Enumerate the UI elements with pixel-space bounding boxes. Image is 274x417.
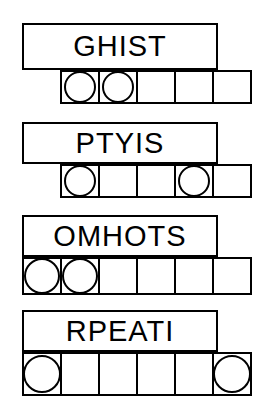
answer-cell[interactable] [98,352,138,396]
answer-cell[interactable] [174,257,214,295]
answer-cell[interactable] [174,352,214,396]
answer-cell[interactable] [212,352,252,396]
circle-icon [24,258,60,294]
answer-cell[interactable] [136,257,176,295]
scrambled-word-box: PTYIS [22,122,218,164]
circle-icon [62,258,98,294]
scrambled-word-text: RPEATI [66,317,175,346]
answer-cell[interactable] [98,164,138,198]
circle-icon [102,71,134,103]
answer-cell[interactable] [60,352,100,396]
answer-cell[interactable] [22,257,62,295]
answer-cell[interactable] [136,164,176,198]
answer-cell[interactable] [212,164,252,198]
answer-cell[interactable] [60,70,100,104]
answer-grid [22,257,258,295]
scrambled-word-box: RPEATI [22,310,218,352]
answer-cell[interactable] [174,164,214,198]
circle-icon [213,355,251,393]
answer-cell[interactable] [60,164,100,198]
scrambled-word-text: PTYIS [76,129,165,158]
scrambled-word-box: GHIST [22,23,218,70]
circle-icon [64,165,96,197]
answer-grid [60,70,258,104]
answer-cell[interactable] [212,70,252,104]
answer-cell[interactable] [98,70,138,104]
answer-grid [22,352,258,396]
answer-cell[interactable] [136,352,176,396]
answer-cell[interactable] [174,70,214,104]
answer-cell[interactable] [60,257,100,295]
circle-icon [64,71,96,103]
answer-cell[interactable] [136,70,176,104]
answer-grid [60,164,258,198]
word-scramble-sheet: GHISTPTYISOMHOTSRPEATI [0,0,274,417]
scrambled-word-box: OMHOTS [22,215,218,257]
scrambled-word-text: GHIST [73,32,167,61]
answer-cell[interactable] [22,352,62,396]
circle-icon [23,355,61,393]
answer-cell[interactable] [212,257,252,295]
answer-cell[interactable] [98,257,138,295]
circle-icon [178,165,210,197]
scrambled-word-text: OMHOTS [53,222,186,251]
